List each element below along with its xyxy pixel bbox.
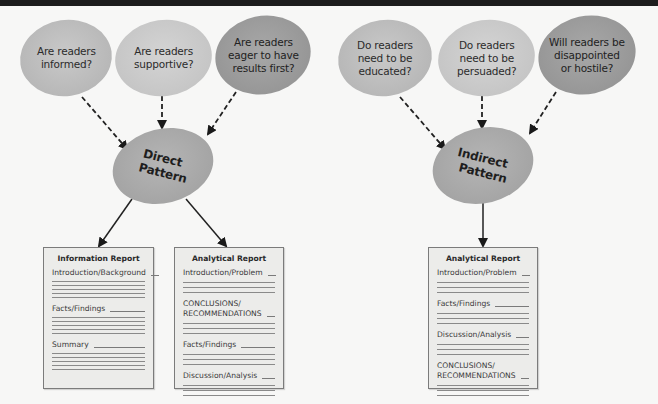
text-placeholder-line [437,385,529,386]
analytical-report-document-direct: Analytical ReportIntroduction/ProblemCON… [174,247,284,389]
information-report-document: Information ReportIntroduction/Backgroun… [43,247,154,389]
section-heading: CONCLUSIONS/ RECOMMENDATIONS [437,361,529,381]
text-placeholder-line [52,297,145,298]
text-placeholder-line [437,282,529,283]
text-placeholder-line [52,333,145,334]
section-heading: Summary [52,340,145,350]
text-placeholder-line [437,395,529,396]
text-placeholder-line [52,361,145,362]
text-placeholder-line [52,293,145,294]
text-placeholder-line [437,349,529,350]
text-placeholder-line [52,329,145,330]
section-label: CONCLUSIONS/ RECOMMENDATIONS [183,299,262,319]
text-placeholder-line [437,292,529,293]
section-label: Summary [52,340,89,350]
section-label: Discussion/Analysis [183,371,257,381]
section-heading: Introduction/Problem [183,268,275,278]
question-text: Do readers need to be persuaded? [457,39,516,78]
report-section: Summary [52,340,145,370]
text-placeholder-line [437,323,529,324]
pattern-label: Direct Pattern [138,151,187,181]
report-section: Facts/Findings [183,340,275,365]
text-placeholder-line [183,395,275,396]
text-placeholder-line [437,287,529,288]
section-heading: Introduction/Background [52,268,145,278]
dashed-arrow-informed [82,97,127,149]
text-placeholder-line [183,323,275,324]
arrow-to-analytical-report-left [186,199,226,246]
report-section: Facts/Findings [52,304,145,334]
section-heading: Facts/Findings [183,340,275,350]
section-blank-line [495,306,529,307]
pattern-label: Indirect Pattern [457,151,508,181]
report-title: Analytical Report [183,254,275,263]
text-placeholder-line [437,313,529,314]
section-label: CONCLUSIONS/ RECOMMENDATIONS [437,361,516,381]
section-label: Facts/Findings [437,299,490,309]
question-text: Do readers need to be educated? [357,39,413,78]
question-text: Are readers supportive? [134,45,193,71]
text-placeholder-line [52,325,145,326]
text-placeholder-line [52,353,145,354]
question-text: Will readers be disappointed or hostile? [549,36,625,75]
section-blank-line [110,311,145,312]
text-placeholder-line [52,281,145,282]
text-placeholder-line [437,354,529,355]
section-blank-line [151,275,159,276]
report-section: CONCLUSIONS/ RECOMMENDATIONS [183,299,275,334]
section-label: Discussion/Analysis [437,330,511,340]
text-placeholder-line [52,321,145,322]
text-placeholder-line [183,328,275,329]
section-heading: Facts/Findings [52,304,145,314]
report-section: Discussion/Analysis [437,330,529,355]
report-section: Introduction/Background [52,268,145,298]
section-heading: Discussion/Analysis [437,330,529,340]
text-placeholder-line [183,364,275,365]
section-blank-line [267,316,275,317]
section-label: Introduction/Problem [437,268,517,278]
analytical-report-document-indirect: Analytical ReportIntroduction/ProblemFac… [428,247,538,389]
dashed-arrow-eager [208,92,236,134]
text-placeholder-line [183,354,275,355]
section-label: Introduction/Problem [183,268,263,278]
report-section: Discussion/Analysis [183,371,275,396]
question-text: Are readers informed? [37,45,96,71]
text-placeholder-line [437,390,529,391]
section-heading: Discussion/Analysis [183,371,275,381]
text-placeholder-line [183,359,275,360]
text-placeholder-line [52,289,145,290]
section-blank-line [262,378,275,379]
text-placeholder-line [183,292,275,293]
report-title: Analytical Report [437,254,529,263]
section-label: Facts/Findings [52,304,105,314]
question-text: Are readers eager to have results first? [228,36,299,75]
text-placeholder-line [52,285,145,286]
text-placeholder-line [52,357,145,358]
text-placeholder-line [52,365,145,366]
text-placeholder-line [183,282,275,283]
report-section: Introduction/Problem [437,268,529,293]
section-label: Facts/Findings [183,340,236,350]
section-blank-line [94,347,145,348]
text-placeholder-line [183,287,275,288]
report-title: Information Report [52,254,145,263]
arrow-to-information-report [99,199,132,246]
section-blank-line [516,337,529,338]
dashed-arrow-hostile [530,92,556,133]
text-placeholder-line [52,369,145,370]
dashed-arrow-educated [400,97,445,149]
report-section: Introduction/Problem [183,268,275,293]
section-blank-line [522,275,530,276]
report-section: Facts/Findings [437,299,529,324]
section-heading: CONCLUSIONS/ RECOMMENDATIONS [183,299,275,319]
report-section: CONCLUSIONS/ RECOMMENDATIONS [437,361,529,396]
text-placeholder-line [183,390,275,391]
section-blank-line [268,275,276,276]
text-placeholder-line [437,318,529,319]
text-placeholder-line [52,317,145,318]
section-heading: Introduction/Problem [437,268,529,278]
section-blank-line [521,378,529,379]
text-placeholder-line [183,385,275,386]
text-placeholder-line [437,344,529,345]
section-blank-line [241,347,275,348]
